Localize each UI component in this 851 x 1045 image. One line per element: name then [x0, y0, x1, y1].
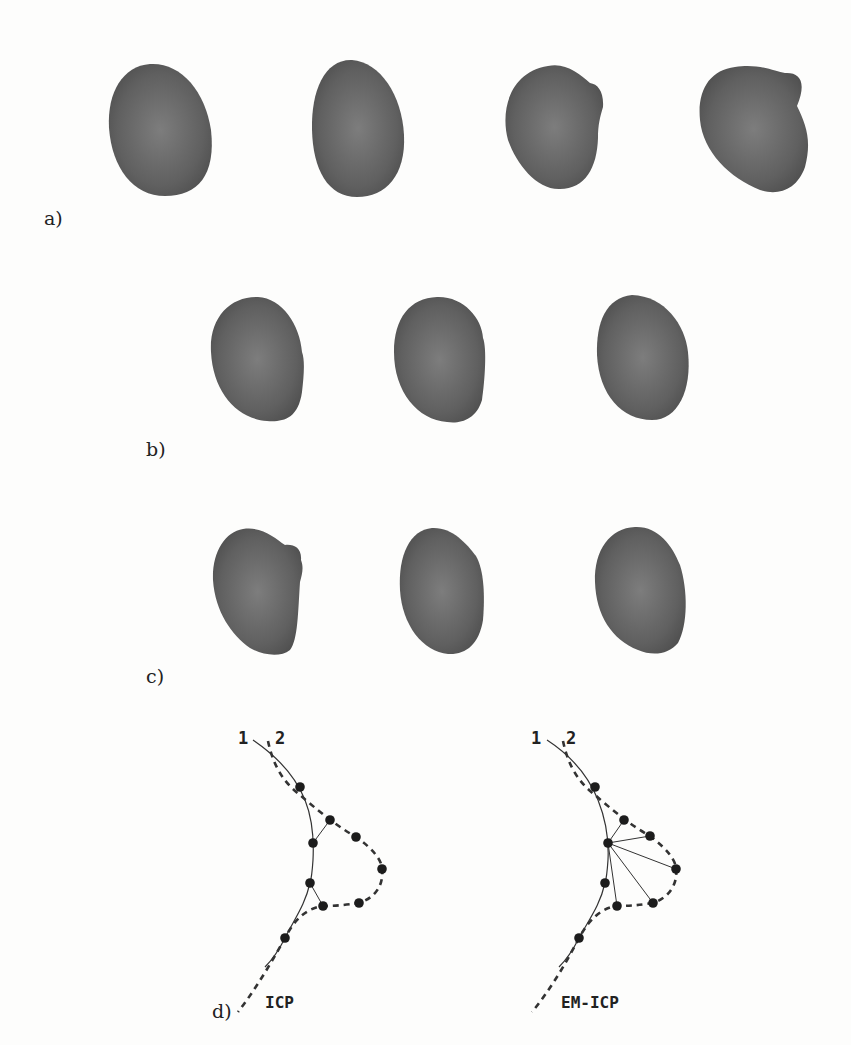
shape-c2: [400, 528, 484, 654]
icp-diagram: [238, 740, 387, 1012]
em-icp-title: EM-ICP: [561, 993, 619, 1012]
panel-label-d: d): [212, 1000, 232, 1022]
panel-label-b: b): [146, 438, 166, 460]
row-a-shapes: [109, 60, 808, 197]
icp-curve-1-solid: [253, 740, 313, 967]
shape-b1: [211, 297, 304, 421]
em-icp-links: [608, 820, 676, 906]
panel-label-a: a): [44, 207, 63, 229]
shape-a1: [109, 64, 212, 196]
row-b-shapes: [211, 295, 689, 422]
panel-label-c: c): [146, 665, 164, 687]
em-icp-curve-1-solid: [547, 740, 608, 967]
shape-a3: [505, 65, 603, 189]
icp-title: ICP: [265, 993, 294, 1012]
em-icp-curve-2-dashed: [532, 741, 676, 1012]
shape-c3: [595, 527, 686, 654]
icp-curve-label-2: 2: [275, 728, 285, 748]
em-icp-diagram: [532, 740, 681, 1012]
shape-b3: [597, 295, 689, 420]
em-icp-curve-label-2: 2: [566, 728, 576, 748]
shape-b2: [394, 297, 485, 422]
em-icp-curve-label-1: 1: [531, 728, 541, 748]
figure: a) b) c) d) 1 2 1 2 ICP EM-ICP: [0, 0, 851, 1045]
shape-a4: [700, 66, 808, 192]
figure-graphics: [0, 0, 851, 1045]
icp-points: [280, 782, 387, 943]
icp-curve-label-1: 1: [238, 728, 248, 748]
icp-curve-2-dashed: [238, 741, 382, 1012]
row-c-shapes: [213, 527, 686, 655]
shape-a2: [312, 60, 404, 197]
shape-c1: [213, 529, 303, 655]
